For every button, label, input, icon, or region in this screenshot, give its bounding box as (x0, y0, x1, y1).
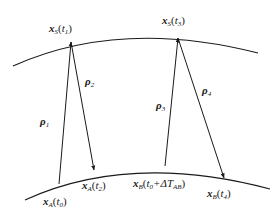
satellite-orbit-curve (13, 38, 258, 66)
vector-label-rho4: ρ4 (202, 85, 211, 98)
point-label-xS_t3: xS(t3) (162, 15, 185, 28)
point-label-xA_t2: xA(t2) (82, 180, 106, 193)
vector-label-rho2: ρ2 (85, 76, 94, 89)
vector-label-rho3: ρ3 (156, 100, 165, 113)
vector-label-rho1: ρ1 (40, 116, 49, 129)
range-vector-rho4 (178, 38, 224, 178)
range-vector-rho3 (165, 38, 178, 166)
range-vector-rho1 (59, 42, 71, 184)
point-label-xB_t0dT: xB(t0+ΔTAB) (133, 178, 185, 191)
point-label-xS_t1: xS(t1) (49, 23, 72, 36)
range-vector-rho2 (71, 42, 94, 170)
point-label-xB_t4: xB(t4) (207, 188, 231, 201)
point-label-xA_t0: xA(t0) (43, 196, 67, 209)
